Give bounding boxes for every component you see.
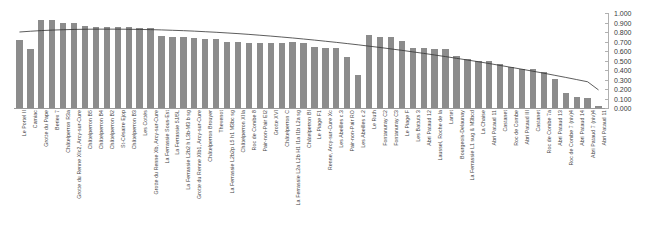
x-axis-tick-label: Le Portel II <box>21 110 27 136</box>
bar <box>410 48 416 108</box>
x-axis-tick-label: Grotte du Renne XIc2, Arcy-sur-Cure <box>76 110 82 199</box>
x-axis-tick-label: La Ferrassie L2a L2b H1 I1a I1b L2a sg <box>295 110 301 205</box>
bar <box>126 27 132 108</box>
x-axis-tick-label: Grotte du Renne Xb, Arcy-sur-Cure <box>153 110 159 194</box>
x-axis-tick-label: Le Piage F1 <box>316 110 322 139</box>
bar <box>552 79 558 108</box>
y-axis-tick <box>605 23 609 24</box>
x-axis-tick-label: Les Abeilles c.3 <box>338 110 344 148</box>
bar <box>268 43 274 108</box>
bar <box>333 48 339 108</box>
y-axis-tick-label: 1.000 <box>614 10 632 17</box>
x-axis-tick-label: La Ferrassie 5J/5L <box>174 110 180 155</box>
bar <box>71 23 77 108</box>
x-axis-tick-label: Les Cottés <box>142 110 148 136</box>
y-axis-tick-label: 0.000 <box>614 105 632 112</box>
y-axis-tick-label: 0.400 <box>614 67 632 74</box>
y-axis: 0.0000.1000.2000.3000.4000.5000.6000.700… <box>608 13 654 108</box>
y-axis-tick <box>605 42 609 43</box>
bar <box>311 47 317 108</box>
bar <box>300 43 306 108</box>
x-axis-tick-label: Châtelperron BI <box>306 110 312 148</box>
y-axis-tick-label: 0.800 <box>614 29 632 36</box>
bar <box>235 42 241 108</box>
bar <box>344 57 350 108</box>
x-axis-tick-label: Castanet <box>502 110 508 132</box>
x-axis-tick-label: Castanet <box>535 110 541 132</box>
bar <box>541 72 547 108</box>
x-axis-tick-label: Châtelperron C <box>284 110 290 147</box>
x-axis-labels: Le Portel IICamiacGrotte du PapeBeriex 7… <box>14 110 606 227</box>
bar <box>355 75 361 108</box>
x-axis-tick-label: Pair-non-Pair RO <box>349 110 355 151</box>
x-axis-tick-label: Grotte XVI <box>273 110 279 135</box>
x-axis-tick-label: Bourgeois-Delaunay <box>459 110 465 159</box>
y-axis-tick <box>605 99 609 100</box>
bar <box>289 42 295 108</box>
x-axis-tick-label: Renne, Arcy-sur-Cure Xc <box>327 110 333 170</box>
bar <box>180 37 186 108</box>
x-axis-tick-label: Abri Pataud III <box>524 110 530 144</box>
x-axis-tick-label: Châtelperron XIIa <box>240 110 246 152</box>
y-axis-tick <box>605 32 609 33</box>
x-axis-tick-label: Abri Pataud 13 <box>557 110 563 146</box>
x-axis-tick-label: Lartet <box>448 110 454 124</box>
bar <box>16 40 22 108</box>
x-axis-tick-label: Laussel, Roche de la <box>437 110 443 161</box>
x-axis-tick-label: La Chaise <box>480 110 486 134</box>
y-axis-tick-label: 0.600 <box>614 48 632 55</box>
bar <box>574 97 580 108</box>
x-axis-baseline <box>14 108 606 109</box>
bar <box>453 56 459 108</box>
x-axis-tick-label: Grotte du Pape <box>43 110 49 147</box>
bars-layer <box>14 13 604 108</box>
x-axis-tick-label: La Ferrassie L1 sug & M3bcd <box>469 110 475 181</box>
y-axis-tick-label: 0.300 <box>614 76 632 83</box>
bar <box>93 27 99 108</box>
bar <box>377 37 383 108</box>
x-axis-tick-label: Roc de Combe 7 (niv)4 <box>568 110 574 166</box>
x-axis-tick-label: St-Césaire Ejop <box>120 110 126 148</box>
x-axis-tick-label: Camiac <box>32 110 38 128</box>
x-axis-tick-label: Les Abeilles c.2 <box>360 110 366 148</box>
bar <box>60 23 66 108</box>
bar <box>442 49 448 108</box>
y-axis-tick <box>605 61 609 62</box>
x-axis-tick-label: Grotte du Renne XIb1, Arcy-sur-Cure <box>196 110 202 199</box>
bar <box>191 38 197 108</box>
x-axis-tick-label: Châtelperron R3a <box>65 110 71 153</box>
bar <box>104 27 110 108</box>
y-axis-tick-label: 0.500 <box>614 57 632 64</box>
bar <box>388 37 394 108</box>
bar <box>421 48 427 108</box>
x-axis-tick-label: Roc de Combe 7a <box>546 110 552 153</box>
bar <box>147 28 153 108</box>
x-axis-tick-label: Châtelperron B4 <box>98 110 104 149</box>
bar <box>136 28 142 108</box>
bar <box>169 37 175 108</box>
x-axis-tick-label: Châtelperron B5 <box>87 110 93 149</box>
bar <box>475 61 481 109</box>
bar <box>82 26 88 108</box>
bar <box>49 20 55 108</box>
x-axis-tick-label: Beriex 7 <box>54 110 60 130</box>
y-axis-tick <box>605 108 609 109</box>
bar <box>464 59 470 108</box>
y-axis-tick-label: 0.200 <box>614 86 632 93</box>
x-axis-tick-label: Roc de Combe <box>513 110 519 146</box>
x-axis-tick-label: Pair-non-Pair EI2 <box>262 110 268 152</box>
bar <box>213 39 219 108</box>
plot-area <box>14 13 604 108</box>
x-axis-tick-label: Abri Pataud 14 <box>579 110 585 146</box>
x-axis-tick-label: Châtelperron B2 <box>109 110 115 149</box>
bar <box>115 27 121 108</box>
bar-chart: 0.0000.1000.2000.3000.4000.5000.6000.700… <box>0 0 654 227</box>
bar <box>224 42 230 109</box>
x-axis-tick-label: Châtelperron B3 <box>131 110 137 149</box>
bar <box>27 49 33 108</box>
bar <box>519 69 525 108</box>
bar <box>486 61 492 108</box>
y-axis-tick-label: 0.900 <box>614 19 632 26</box>
y-axis-tick <box>605 70 609 71</box>
x-axis-tick-label: Châtelperron Brouyer <box>207 110 213 162</box>
